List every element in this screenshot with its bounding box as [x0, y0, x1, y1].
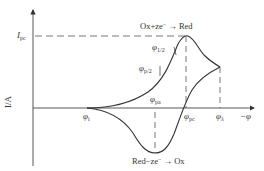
reduction-reaction-label: Ox+ze− → Red: [140, 21, 193, 31]
ipc-label: Ipc: [17, 31, 26, 41]
anodic-curve: [87, 67, 220, 153]
phi-pc-label: φpc: [184, 112, 195, 122]
phi-half-label: φ1/2: [152, 43, 165, 53]
phi-i-label: φi: [83, 112, 90, 122]
y-axis-label: I/A: [4, 96, 13, 108]
phi-p2-label: φp/2: [139, 64, 152, 74]
phi-pa-label: φpa: [150, 95, 161, 105]
phi-lambda-label: φλ: [216, 112, 224, 122]
oxidation-reaction-label: Red−ze− → Ox: [132, 156, 185, 166]
x-axis-label: −φ: [240, 112, 251, 121]
cv-diagram: [0, 0, 264, 171]
